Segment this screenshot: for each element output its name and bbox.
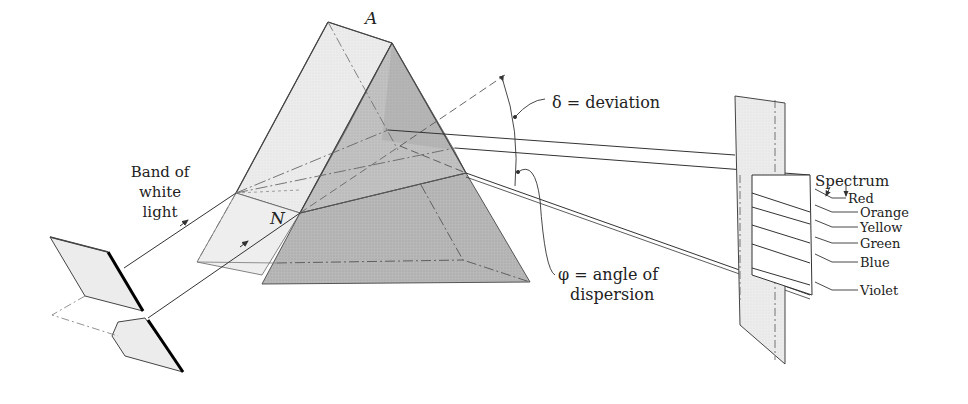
prism [197, 22, 530, 284]
spectrum-green: Green [860, 236, 901, 251]
spectrum-blue: Blue [860, 255, 890, 270]
apex-label: A [363, 8, 377, 28]
screen [735, 96, 812, 364]
spectrum-orange: Orange [860, 205, 909, 220]
angle-arcs [503, 81, 555, 275]
prism-dispersion-diagram: A N Band of white light δ = deviation φ … [0, 0, 968, 404]
incident-label-line3: light [143, 203, 178, 221]
incident-label-line2: white [139, 183, 181, 201]
incident-label-line1: Band of [131, 163, 191, 181]
slit-upper-plate [50, 237, 143, 311]
dispersion-label-line1: φ = angle of [558, 265, 659, 284]
dispersion-label-line2: dispersion [570, 285, 654, 304]
spectrum-violet: Violet [859, 283, 899, 298]
deviation-label: δ = deviation [552, 93, 660, 112]
spectrum-yellow: Yellow [859, 220, 902, 235]
normal-point-label: N [269, 208, 286, 228]
spectrum-title: Spectrum [815, 172, 889, 190]
spectrum-red: Red [848, 191, 874, 206]
